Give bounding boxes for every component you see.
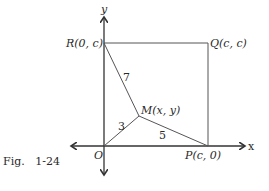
figure-caption: Fig. 1-24 [3, 155, 60, 168]
length-label-om: 3 [118, 120, 125, 133]
segment-rm [104, 43, 139, 116]
segment-pm [139, 116, 208, 146]
point-m-label: M(x, y) [140, 104, 180, 117]
length-label-pm: 5 [159, 129, 166, 142]
point-p-label: P(c, 0) [184, 149, 221, 162]
y-axis-label: y [100, 3, 108, 16]
coordinate-diagram: y x R(0, c) Q(c, c) M(x, y) O P(c, 0) 7 … [0, 0, 269, 191]
point-r-label: R(0, c) [65, 37, 103, 50]
length-label-rm: 7 [123, 71, 130, 84]
x-axis-label: x [248, 140, 255, 153]
point-o-label: O [94, 149, 103, 162]
point-q-label: Q(c, c) [210, 37, 247, 50]
